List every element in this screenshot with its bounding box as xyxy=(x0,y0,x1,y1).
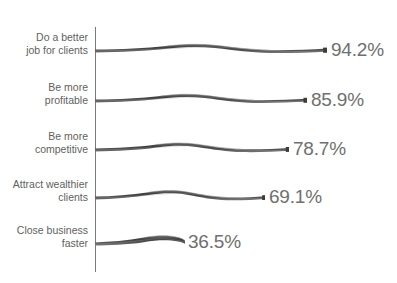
chart-row: Be more profitable 85.9% xyxy=(0,79,397,119)
chart-row: Close business faster 36.5% xyxy=(0,223,397,263)
bar-chart: —— Do a better job for clients xyxy=(0,0,397,283)
bar[interactable] xyxy=(95,89,307,107)
value-label: 85.9% xyxy=(311,90,364,109)
chart-row: Attract wealthier clients 69.1% xyxy=(0,177,397,217)
category-label: Be more competitive xyxy=(0,130,88,155)
bar-shape xyxy=(95,39,327,57)
bar-shape xyxy=(95,186,265,204)
bar[interactable] xyxy=(95,186,265,204)
value-label: 69.1% xyxy=(269,187,322,206)
value-label: 36.5% xyxy=(188,232,241,251)
bar[interactable] xyxy=(95,232,185,250)
value-label: 78.7% xyxy=(293,139,346,158)
chart-row: Do a better job for clients 94.2% xyxy=(0,30,397,70)
bar-shape xyxy=(95,232,185,250)
category-label: Be more profitable xyxy=(0,81,88,106)
chart-title-remnant: —— xyxy=(305,0,351,4)
value-label: 94.2% xyxy=(331,40,384,59)
category-label: Attract wealthier clients xyxy=(0,178,88,203)
bar-shape xyxy=(95,138,289,156)
bar-shape xyxy=(95,89,307,107)
category-label: Close business faster xyxy=(0,224,88,249)
bar[interactable] xyxy=(95,138,289,156)
category-label: Do a better job for clients xyxy=(0,31,88,56)
bar[interactable] xyxy=(95,39,327,57)
chart-row: Be more competitive 78.7% xyxy=(0,129,397,169)
